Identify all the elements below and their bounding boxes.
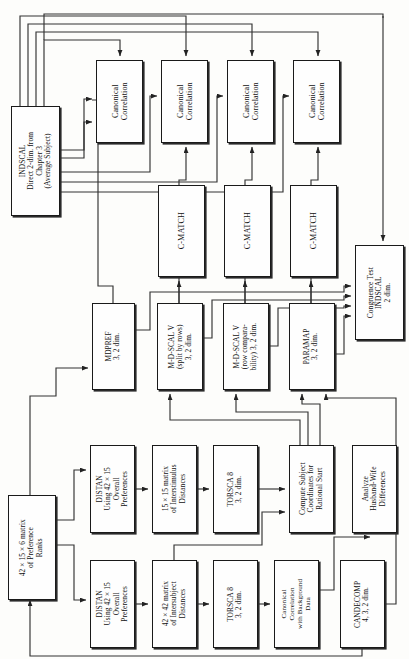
node-cmatch1: C-MATCH: [158, 185, 205, 277]
node-mdscal_split: M-D-SCAL V(split by rows)3, 2 dim.: [157, 303, 203, 390]
node-inter42: 42 × 42 matrixof IntersubjectDistances: [152, 560, 197, 648]
node-label-torsca2: TORSCA 83, 2 dim.: [227, 587, 244, 622]
node-cmatch2: C-MATCH: [224, 185, 271, 277]
node-label-compute: Compute SubjectCoordinates forRational S…: [299, 463, 324, 516]
node-canon1: CanonicalCorrelation: [96, 60, 143, 143]
node-mdpref: MDPREF3, 2 dim.: [92, 303, 135, 390]
node-canon4: CanonicalCorrelation: [293, 60, 340, 143]
node-label-congruence: Congruence TestINDSCAL2 dim.: [367, 267, 392, 318]
node-label-torsca1: TORSCA 83, 2 dim.: [227, 472, 244, 507]
node-label-canon2: CanonicalCorrelation: [175, 83, 193, 121]
node-label-cmatch3: C-MATCH: [309, 212, 318, 249]
node-label-inter15: 15 × 15 matrixof InterstimulusDistances: [162, 465, 187, 514]
node-canonbg: CanonicalCorrelationwith BackgroundData: [274, 560, 319, 648]
node-label-mdscal_split: M-D-SCAL V(split by rows)3, 2 dim.: [167, 324, 192, 369]
node-label-cmatch2: C-MATCH: [243, 212, 252, 249]
node-distan2: DISTANUsing 42 × 15OverallPreferences: [90, 560, 135, 648]
node-prefranks: 42 × 15 × 6 matrixof PreferenceRanks: [8, 495, 56, 600]
node-label-prefranks: 42 × 15 × 6 matrixof PreferenceRanks: [19, 519, 44, 576]
node-paramap: PARAMAP3, 2 dim.: [289, 303, 335, 390]
node-congruence: Congruence TestINDSCAL2 dim.: [355, 245, 404, 340]
node-label-canon3: CanonicalCorrelation: [241, 83, 259, 121]
node-label-analyze: AnalyzeHusband-WifeDifferences: [362, 467, 387, 511]
node-distan1: DISTANUsing 42 × 15OverallPreferences: [90, 445, 135, 533]
node-label-canon4: CanonicalCorrelation: [307, 83, 325, 121]
node-canon3: CanonicalCorrelation: [227, 60, 274, 143]
node-label-distan2: DISTANUsing 42 × 15OverallPreferences: [96, 582, 130, 625]
node-mdscal_row: M-D-SCAL V(row compara-bility) 3, 2 dim.: [223, 303, 269, 390]
node-torsca1: TORSCA 83, 2 dim.: [213, 445, 258, 533]
node-indscal: INDSCALDirect 2-dim. fromChapter 3(Avera…: [11, 106, 60, 216]
node-compute: Compute SubjectCoordinates forRational S…: [289, 445, 334, 533]
node-label-indscal: INDSCALDirect 2-dim. fromChapter 3(Avera…: [19, 132, 53, 190]
node-cmatch3: C-MATCH: [290, 185, 337, 277]
node-label-canonbg: CanonicalCorrelationwith BackgroundData: [281, 579, 313, 629]
node-torsca2: TORSCA 83, 2 dim.: [213, 560, 258, 648]
node-inter15: 15 × 15 matrixof InterstimulusDistances: [152, 445, 197, 533]
node-label-mdpref: MDPREF3, 2 dim.: [105, 331, 122, 361]
node-label-cmatch1: C-MATCH: [177, 212, 186, 249]
node-analyze: AnalyzeHusband-WifeDifferences: [352, 445, 397, 533]
node-canon2: CanonicalCorrelation: [161, 60, 208, 143]
node-label-distan1: DISTANUsing 42 × 15OverallPreferences: [96, 467, 130, 510]
node-label-canon1: CanonicalCorrelation: [110, 83, 128, 121]
flowchart-diagram: INDSCALDirect 2-dim. fromChapter 3(Avera…: [0, 0, 409, 659]
node-label-paramap: PARAMAP3, 2 dim.: [304, 329, 321, 365]
node-label-candecomp: CANDECOMP4, 3, 2 dim.: [354, 580, 371, 627]
node-candecomp: CANDECOMP4, 3, 2 dim.: [340, 560, 385, 648]
node-label-inter42: 42 × 42 matrixof IntersubjectDistances: [162, 581, 187, 626]
node-label-mdscal_row: M-D-SCAL V(row compara-bility) 3, 2 dim.: [233, 323, 258, 371]
